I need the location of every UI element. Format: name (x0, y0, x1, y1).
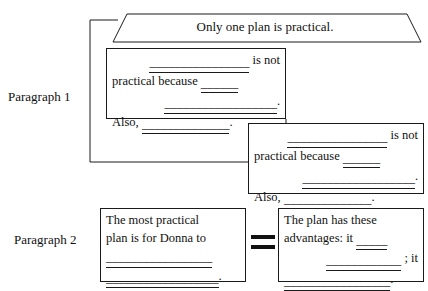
reason-box-a[interactable]: ________________ is not practical becaus… (106, 48, 286, 119)
plan-line-4: __________________. (106, 268, 240, 289)
line-text: Also, (112, 115, 139, 129)
line-punct: . (371, 190, 374, 204)
plan-box[interactable]: The most practical plan is for Donna to … (100, 208, 246, 282)
advantages-line-4: _________________. (284, 271, 418, 291)
advantages-line-2: advantages: it _____ (284, 230, 418, 251)
reason-b-line-3: __________________. (254, 168, 418, 189)
paragraph-1-label: Paragraph 1 (8, 89, 70, 104)
line-text: ; it (404, 251, 418, 265)
blank-line[interactable]: ________________ (149, 54, 249, 73)
line-punct: . (229, 115, 232, 129)
blank-line[interactable]: ______ (343, 150, 381, 169)
blank-line[interactable]: _________________ (106, 249, 212, 268)
reason-a-line-2: practical because ______ (112, 73, 280, 94)
line-text: Also, (254, 190, 281, 204)
line-text: practical because (112, 74, 198, 88)
plan-line-2: plan is for Donna to (106, 230, 240, 248)
advantages-line-3: ____________ ; it (284, 250, 418, 271)
reason-b-line-4: Also, ______________. (254, 189, 418, 210)
plan-line-3: _________________ (106, 247, 240, 268)
paragraph-2-label: Paragraph 2 (14, 232, 76, 247)
line-text: advantages: it (284, 231, 353, 245)
advantages-line-1: The plan has these (284, 212, 418, 230)
advantages-box[interactable]: The plan has these advantages: it _____ … (278, 208, 424, 282)
reason-a-line-1: ________________ is not (112, 52, 280, 73)
blank-line[interactable]: ______________ (284, 191, 372, 210)
line-punct: . (277, 94, 280, 108)
thesis-statement: Only one plan is practical. (110, 19, 420, 35)
reason-b-line-1: ________________ is not (254, 127, 418, 148)
blank-line[interactable]: ______________ (142, 116, 230, 135)
line-punct: . (390, 272, 393, 286)
reason-b-line-2: practical because ______ (254, 148, 418, 169)
blank-line[interactable]: _____ (356, 232, 387, 251)
line-punct: . (415, 169, 418, 183)
blank-line[interactable]: ________________ (287, 129, 387, 148)
equals-sign-bottom-bar (251, 245, 275, 249)
line-text: is not (253, 53, 280, 67)
plan-line-1: The most practical (106, 212, 240, 230)
blank-line[interactable]: __________________ (302, 170, 415, 189)
line-punct: . (219, 269, 222, 283)
blank-line[interactable]: _________________ (284, 273, 390, 291)
blank-line[interactable]: __________________ (106, 270, 219, 289)
blank-line[interactable]: ______ (201, 75, 239, 94)
line-text: practical because (254, 149, 340, 163)
reason-a-line-3: __________________. (112, 93, 280, 114)
blank-line[interactable]: ____________ (326, 252, 401, 271)
blank-line[interactable]: __________________ (164, 95, 277, 114)
reason-box-b[interactable]: ________________ is not practical becaus… (248, 123, 424, 194)
equals-sign-top-bar (251, 235, 275, 239)
line-text: is not (391, 128, 418, 142)
